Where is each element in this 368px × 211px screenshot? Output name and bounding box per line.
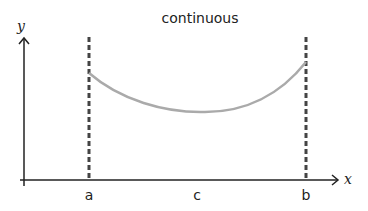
point-label-a: a [85, 187, 94, 203]
point-label-b: b [302, 187, 311, 203]
y-axis [19, 38, 29, 186]
continuous-curve [89, 62, 306, 112]
diagram-title: continuous [162, 10, 239, 26]
x-axis-label: x [344, 171, 352, 187]
y-axis-label: y [16, 18, 26, 34]
x-axis [20, 175, 338, 185]
continuous-function-diagram: continuous y x a c b [0, 0, 368, 211]
point-label-c: c [193, 187, 201, 203]
